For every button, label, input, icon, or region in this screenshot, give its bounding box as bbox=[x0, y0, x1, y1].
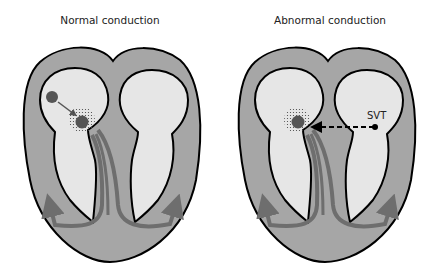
normal-conduction-panel: Normal conduction bbox=[0, 0, 220, 278]
abnormal-heart-diagram: SVT bbox=[220, 0, 440, 278]
normal-heart-diagram bbox=[0, 0, 220, 278]
av-node bbox=[292, 116, 305, 129]
svt-focus bbox=[372, 124, 378, 130]
svt-label: SVT bbox=[367, 110, 387, 121]
sa-node bbox=[46, 91, 58, 103]
abnormal-conduction-panel: Abnormal conduction SVT bbox=[220, 0, 440, 278]
av-node bbox=[76, 116, 89, 129]
